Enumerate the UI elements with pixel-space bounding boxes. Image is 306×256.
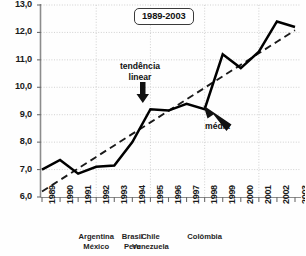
x-axis-tick-label: 1994 [137,185,147,204]
country-label: Venezuela [126,242,174,251]
vertical-gridlines [96,5,259,197]
x-axis-tick-label: 2000 [245,185,255,204]
y-axis-tick-label: 13,0 [2,0,32,9]
average-line-series [42,21,295,173]
horizontal-gridlines [41,5,301,170]
x-axis-tick-label: 1995 [155,185,165,204]
x-axis-tick-label: 2002 [281,185,291,204]
x-axis-tick-label: 1989 [47,185,57,204]
chart-plot-area [0,0,305,256]
x-axis-tick-label: 2003 [300,185,306,204]
y-axis-tick-label: 11,0 [2,54,32,64]
annotation-trend-line1: tendência [107,61,173,72]
x-axis-tick-label: 1993 [119,185,129,204]
annotation-trend-line2: linear [107,72,173,83]
chart-title-box: 1989-2003 [134,8,194,25]
x-axis-tick-label: 2001 [263,185,273,204]
x-axis-tick-label: 1990 [65,185,75,204]
trend-arrow-icon [137,82,150,103]
y-axis-tick-label: 6,0 [2,191,32,201]
x-axis-tick-label: 1999 [227,185,237,204]
y-axis-tick-label: 10,0 [2,81,32,91]
x-axis-tick-label: 1991 [83,185,93,204]
annotation-media-label: média [205,121,249,132]
y-axis-tick-label: 7,0 [2,164,32,174]
country-label: Colômbia [181,232,229,241]
x-axis-tick-label: 1992 [101,185,111,204]
x-axis-tick-label: 1997 [191,185,201,204]
country-label: Chile [126,232,174,241]
chart-container: 1989-2003 tendência linear média 6,07,08… [0,0,305,256]
x-axis-tick-label: 1998 [209,185,219,204]
annotation-trend-label: tendência linear [107,61,173,82]
y-axis-tick-label: 8,0 [2,136,32,146]
y-axis-tick-label: 12,0 [2,26,32,36]
y-axis-tick-label: 9,0 [2,109,32,119]
x-axis-tick-label: 1996 [173,185,183,204]
